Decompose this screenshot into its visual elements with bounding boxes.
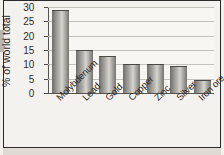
- y-tick-mark: [44, 21, 48, 22]
- y-axis-title: % of world total: [0, 15, 12, 87]
- y-tick-mark: [44, 36, 48, 37]
- y-tick-label: 30: [8, 2, 34, 13]
- y-tick-mark: [44, 93, 48, 94]
- x-axis-labels: Molybdenum Lead Gold Copper Zinc Silver …: [48, 95, 214, 150]
- y-tick-mark: [44, 79, 48, 80]
- y-tick-mark: [44, 50, 48, 51]
- y-tick-label: 0: [8, 88, 34, 99]
- chart-screenshot: 30 25 20 15 10 5 0 % of world total: [0, 0, 224, 155]
- y-tick-mark: [44, 7, 48, 8]
- y-tick-mark: [44, 64, 48, 65]
